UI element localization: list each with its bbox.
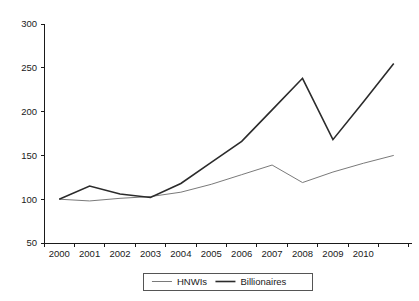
x-tick-label: 2010 — [353, 248, 374, 259]
y-axis-tick-marks — [41, 24, 45, 243]
y-tick-label: 50 — [26, 237, 37, 248]
series-line-hnwis — [59, 155, 394, 201]
chart-legend: HNWIsBillionaires — [144, 273, 312, 290]
y-tick-label: 200 — [21, 106, 37, 117]
series-line-billionaires — [59, 63, 394, 199]
x-tick-label: 2003 — [140, 248, 161, 259]
x-tick-label: 2001 — [79, 248, 100, 259]
data-series-group — [59, 63, 394, 201]
legend-label: HNWIs — [177, 276, 207, 287]
y-tick-label: 150 — [21, 150, 37, 161]
x-tick-label: 2008 — [292, 248, 313, 259]
y-tick-label: 300 — [21, 18, 37, 29]
x-tick-label: 2005 — [201, 248, 222, 259]
y-axis-tick-labels: 50100150200250300 — [21, 18, 37, 248]
x-tick-label: 2006 — [231, 248, 252, 259]
legend-label: Billionaires — [240, 276, 286, 287]
x-tick-label: 2002 — [109, 248, 130, 259]
chart-figure: 50100150200250300 2000200120022003200420… — [0, 0, 419, 301]
y-tick-label: 250 — [21, 62, 37, 73]
x-tick-label: 2004 — [170, 248, 191, 259]
x-axis-tick-marks — [44, 243, 409, 247]
x-tick-label: 2007 — [262, 248, 283, 259]
y-tick-label: 100 — [21, 194, 37, 205]
x-tick-label: 2000 — [49, 248, 70, 259]
x-axis-tick-labels: 2000200120022003200420052006200720082009… — [49, 248, 374, 259]
x-tick-label: 2009 — [322, 248, 343, 259]
line-chart: 50100150200250300 2000200120022003200420… — [0, 0, 419, 301]
